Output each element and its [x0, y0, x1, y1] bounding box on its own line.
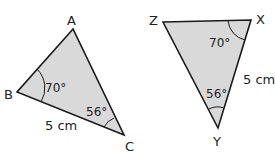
angle-y-label: 56° [206, 87, 227, 101]
side-bc-label: 5 cm [45, 118, 77, 133]
angle-c-label: 56° [86, 105, 107, 119]
congruent-triangles-diagram: A B C 70° 56° 5 cm Z X Y 70° 56° 5 cm [0, 0, 275, 157]
vertex-x-label: X [256, 12, 265, 27]
angle-x-label: 70° [209, 36, 230, 50]
triangle-abc: A B C 70° 56° 5 cm [4, 13, 134, 154]
triangle-xyz: Z X Y 70° 56° 5 cm [149, 12, 275, 149]
vertex-b-label: B [4, 87, 13, 102]
vertex-a-label: A [67, 13, 76, 28]
vertex-c-label: C [125, 139, 134, 154]
side-xy-label: 5 cm [243, 72, 275, 87]
vertex-y-label: Y [212, 134, 221, 149]
vertex-z-label: Z [149, 13, 158, 28]
triangle-xyz-shape [163, 20, 251, 128]
angle-b-label: 70° [45, 81, 66, 95]
